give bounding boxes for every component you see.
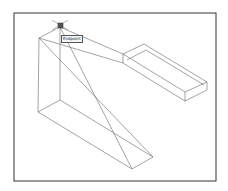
large-wedge-wireframe[interactable] bbox=[38, 27, 153, 169]
viewport-frame bbox=[14, 13, 216, 181]
small-box-wireframe[interactable] bbox=[123, 44, 207, 101]
wireframe-canvas[interactable] bbox=[0, 0, 228, 191]
osnap-tooltip: Endpoint bbox=[61, 35, 83, 43]
drawing-viewport[interactable]: Endpoint bbox=[0, 0, 228, 191]
endpoint-snap-marker-icon bbox=[58, 23, 63, 28]
